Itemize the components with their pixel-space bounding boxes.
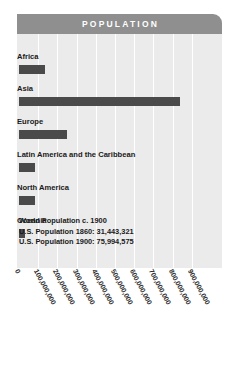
bar <box>19 163 35 172</box>
bar <box>19 97 180 106</box>
x-axis-tick-labels: 0100,000,000200,000,000300,000,000400,00… <box>0 268 227 358</box>
bar <box>19 130 67 139</box>
annotation-line-3: U.S. Population 1900: 75,994,575 <box>19 237 134 248</box>
bar-category-label: Asia <box>17 85 33 93</box>
bar-category-label: Africa <box>17 53 39 61</box>
bar-category-label: Europe <box>17 118 43 126</box>
bar-category-label: Latin America and the Caribbean <box>17 151 135 159</box>
page-title: POPULATION <box>80 20 159 29</box>
bar <box>19 65 45 74</box>
bar <box>19 196 35 205</box>
bar-category-label: North America <box>17 184 69 192</box>
population-bar-chart: POPULATION AfricaAsiaEuropeLatin America… <box>0 0 227 370</box>
chart-header-band: POPULATION <box>17 14 222 34</box>
x-tick-label: 0 <box>14 268 22 275</box>
plot-area: AfricaAsiaEuropeLatin America and the Ca… <box>17 34 222 268</box>
annotation-line-2: U.S. Population 1860: 31,443,321 <box>19 227 134 238</box>
annotation-line-1: World Population c. 1900 <box>19 216 107 227</box>
